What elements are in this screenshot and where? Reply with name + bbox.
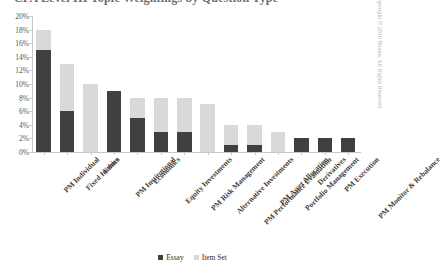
bar-segment-essay[interactable] xyxy=(107,91,122,152)
bar-stack[interactable] xyxy=(271,132,286,152)
bar-segment-item-set[interactable] xyxy=(36,30,51,50)
bar-slot xyxy=(173,16,196,152)
bar-stack[interactable] xyxy=(177,98,192,152)
bar-segment-essay[interactable] xyxy=(154,132,169,152)
y-axis-tick-mark xyxy=(29,152,32,153)
x-axis-tick-mark xyxy=(184,152,185,155)
x-axis-tick-mark xyxy=(301,152,302,155)
bar-slot xyxy=(32,16,55,152)
bar-segment-essay[interactable] xyxy=(177,132,192,152)
plot-area: 0%2%4%6%8%10%12%14%16%18%20% xyxy=(32,16,360,152)
x-axis-tick-mark xyxy=(91,152,92,155)
bar-segment-item-set[interactable] xyxy=(177,98,192,132)
bar-segment-essay[interactable] xyxy=(294,138,309,152)
x-axis-tick-mark xyxy=(231,152,232,155)
bar-stack[interactable] xyxy=(247,125,262,152)
bar-segment-essay[interactable] xyxy=(224,145,239,152)
x-axis-tick-mark xyxy=(348,152,349,155)
bar-segment-essay[interactable] xyxy=(341,138,356,152)
bar-slot xyxy=(290,16,313,152)
bar-stack[interactable] xyxy=(224,125,239,152)
bar-segment-item-set[interactable] xyxy=(130,98,145,118)
x-axis-tick-mark xyxy=(255,152,256,155)
bar-stack[interactable] xyxy=(83,84,98,152)
bar-slot xyxy=(149,16,172,152)
x-axis-tick-mark xyxy=(44,152,45,155)
bar-stack[interactable] xyxy=(154,98,169,152)
chart-legend: Essay Item Set xyxy=(0,253,385,262)
x-axis-tick-mark xyxy=(67,152,68,155)
bar-segment-item-set[interactable] xyxy=(200,104,215,152)
bar-stack[interactable] xyxy=(60,64,75,152)
bar-segment-essay[interactable] xyxy=(60,111,75,152)
bar-stack[interactable] xyxy=(294,138,309,152)
bar-slot xyxy=(313,16,336,152)
bar-slot xyxy=(266,16,289,152)
bar-segment-item-set[interactable] xyxy=(60,64,75,112)
bar-stack[interactable] xyxy=(318,138,333,152)
legend-item: Essay xyxy=(158,253,184,262)
page-title: CFA Level III Topic Weightings by Questi… xyxy=(14,0,278,6)
x-axis-label: Ethics xyxy=(100,155,121,176)
bar-stack[interactable] xyxy=(200,104,215,152)
bar-segment-essay[interactable] xyxy=(318,138,333,152)
bar-segment-item-set[interactable] xyxy=(154,98,169,132)
bar-segment-essay[interactable] xyxy=(36,50,51,152)
bar-segment-item-set[interactable] xyxy=(247,125,262,145)
bar-slot xyxy=(55,16,78,152)
x-axis-tick-mark xyxy=(208,152,209,155)
bar-stack[interactable] xyxy=(36,30,51,152)
bar-segment-item-set[interactable] xyxy=(224,125,239,145)
x-axis-line xyxy=(32,152,361,153)
bar-stack[interactable] xyxy=(130,98,145,152)
chart-title-cropped: CFA Level III Topic Weightings by Questi… xyxy=(0,0,385,9)
legend-label-item-set: Item Set xyxy=(202,253,227,262)
bar-slot xyxy=(79,16,102,152)
bar-stack[interactable] xyxy=(107,91,122,152)
bar-slot xyxy=(243,16,266,152)
x-axis-tick-mark xyxy=(278,152,279,155)
x-axis-tick-mark xyxy=(161,152,162,155)
copyright-notice: Copyright © 2010 Bloom. All Rights Reser… xyxy=(377,0,383,108)
bar-segment-essay[interactable] xyxy=(247,145,262,152)
bar-slot xyxy=(219,16,242,152)
bar-slot xyxy=(196,16,219,152)
bar-group xyxy=(32,16,360,152)
bar-segment-item-set[interactable] xyxy=(271,132,286,152)
bar-slot xyxy=(126,16,149,152)
bar-slot xyxy=(336,16,359,152)
bar-segment-item-set[interactable] xyxy=(83,84,98,152)
x-axis-tick-mark xyxy=(137,152,138,155)
bar-stack[interactable] xyxy=(341,138,356,152)
bar-segment-essay[interactable] xyxy=(130,118,145,152)
bar-slot xyxy=(102,16,125,152)
legend-swatch-essay xyxy=(158,255,163,260)
legend-swatch-item-set xyxy=(194,255,199,260)
x-axis-label: PM Monitor & Rebalance xyxy=(377,155,442,220)
legend-item: Item Set xyxy=(194,253,227,262)
legend-label-essay: Essay xyxy=(166,253,184,262)
